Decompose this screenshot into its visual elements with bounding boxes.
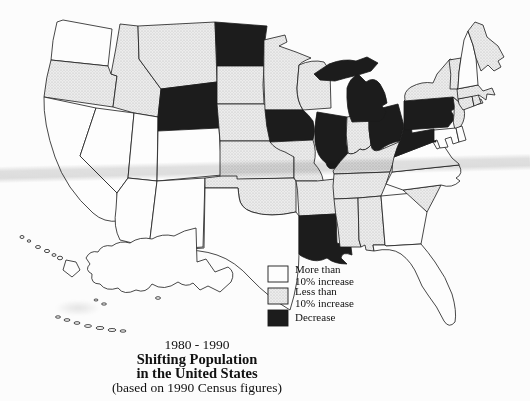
state-hawaii (20, 236, 80, 278)
state-north-dakota (215, 22, 267, 66)
state-washington (51, 20, 112, 66)
state-maryland (434, 128, 459, 148)
legend-label-less-line2: 10% increase (295, 297, 354, 309)
title-main-line2: in the United States (136, 365, 258, 381)
legend-label-less-line1: Less than (295, 285, 337, 297)
state-wyoming (158, 82, 219, 131)
title-source: (based on 1990 Census figures) (112, 380, 282, 395)
state-colorado (157, 128, 222, 181)
state-pennsylvania (404, 97, 457, 130)
legend-label-decrease-line1: Decrease (295, 311, 335, 323)
legend-label-more-line1: More than (295, 263, 341, 275)
title-block: 1980 - 1990 Shifting Population in the U… (112, 337, 282, 395)
state-alabama (358, 196, 385, 251)
state-iowa (265, 110, 315, 142)
title-years: 1980 - 1990 (164, 337, 229, 352)
legend: More than 10% increase Less than 10% inc… (268, 263, 354, 326)
legend-swatch-decrease (268, 310, 288, 326)
state-mississippi (334, 198, 361, 247)
state-arkansas (296, 179, 336, 216)
legend-swatch-less-than-10 (268, 288, 288, 304)
state-florida (373, 244, 456, 325)
legend-swatch-more-than-10 (268, 266, 288, 282)
state-tennessee (333, 172, 390, 199)
state-south-dakota (217, 66, 264, 104)
